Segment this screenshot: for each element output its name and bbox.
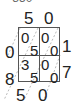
cell-tens: 0 [41, 30, 49, 45]
cell-ones: 0 [50, 43, 58, 58]
left-sum: 8 [5, 71, 14, 88]
bottom-sum: 5 [16, 87, 25, 104]
cell-ones: 5 [30, 43, 38, 58]
bottom-sum: 0 [38, 87, 47, 104]
multiplier-digit: 7 [62, 64, 71, 81]
cell-ones: 0 [50, 70, 58, 85]
cell-tens: 0 [21, 30, 29, 45]
cell-tens: 3 [21, 57, 29, 72]
cell-tens: 0 [41, 57, 49, 72]
multiplier-digit: 1 [62, 38, 71, 55]
cell-ones: 5 [30, 70, 38, 85]
left-sum: 0 [5, 44, 14, 61]
